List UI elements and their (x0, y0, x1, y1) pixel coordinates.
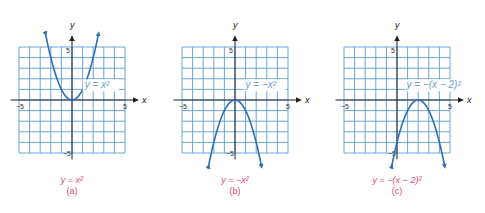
caption-equation-a: y = x² (12, 175, 132, 186)
caption-b: y = −x² (b) (175, 175, 295, 197)
graph-panel-c: xy−555−5y = −(x − 2)² (336, 20, 479, 166)
caption-letter-b: (b) (175, 186, 295, 197)
graph-panel-a: xy−555−5y = x² (11, 20, 147, 159)
tick-max-x: 5 (286, 103, 290, 110)
curve-label: y = −x² (245, 79, 277, 90)
curve-label: y = x² (84, 79, 110, 90)
x-axis-label: x (304, 95, 310, 105)
tick-max-y: 5 (391, 47, 395, 54)
x-axis-label: x (141, 95, 147, 105)
y-axis-label: y (69, 20, 75, 30)
caption-a: y = x² (a) (12, 175, 132, 197)
tick-max-y: 5 (229, 47, 233, 54)
y-axis-label: y (232, 20, 238, 30)
y-axis-label: y (394, 20, 400, 30)
tick-max-x: 5 (448, 103, 452, 110)
tick-min-y: −5 (63, 150, 71, 157)
curve-label: y = −(x − 2)² (406, 79, 462, 90)
tick-min-x: −5 (179, 103, 187, 110)
caption-letter-a: (a) (12, 186, 132, 197)
tick-min-y: −5 (226, 150, 234, 157)
caption-equation-b: y = −x² (175, 175, 295, 186)
graph-panel-b: xy−555−5y = −x² (174, 20, 310, 166)
caption-letter-c: (c) (337, 186, 457, 197)
tick-min-x: −5 (341, 103, 349, 110)
caption-equation-c: y = −(x − 2)² (337, 175, 457, 186)
tick-max-x: 5 (123, 103, 127, 110)
tick-min-x: −5 (16, 103, 24, 110)
x-axis-label: x (466, 95, 472, 105)
caption-c: y = −(x − 2)² (c) (337, 175, 457, 197)
tick-max-y: 5 (66, 47, 70, 54)
